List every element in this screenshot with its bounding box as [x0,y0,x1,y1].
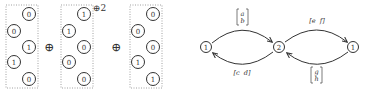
svg-text:1: 1 [351,44,355,52]
column-1: 0 0 1 1 0 [6,5,38,88]
column-3: 0 0 0 1 1 [130,5,162,88]
edge-label-ab: a b [237,9,248,25]
cell-c1-r1: 0 [23,8,36,21]
edge-2-to-3 [285,30,347,42]
cell-c1-r3: 1 [23,41,36,54]
edge-1-to-2 [212,30,272,43]
svg-text:1: 1 [151,76,155,84]
svg-text:0: 0 [151,11,155,19]
svg-text:2: 2 [277,44,281,52]
svg-text:1: 1 [27,44,31,52]
oplus-operator-1: ⊕ [44,40,54,54]
edge-label-cd: [c d] [233,69,250,77]
svg-text:0: 0 [27,76,31,84]
edge-2-to-1 [213,52,273,64]
svg-text:0: 0 [12,28,16,36]
cell-c2-r3: 0 [78,41,91,54]
cell-c2-r4: 0 [63,56,76,69]
cell-c1-r5: 0 [23,73,36,86]
cell-c2-r2: 1 [63,25,76,38]
svg-text:0: 0 [151,44,155,52]
cell-c2-r5: 0 [78,73,91,86]
column-2: 1 1 0 0 0 [61,5,93,88]
oplus-operator-2: ⊕ [111,40,121,54]
edge-label-ef: [e f] [309,17,325,25]
cell-c2-r1: 1 [78,8,91,21]
svg-text:0: 0 [136,28,140,36]
cell-c3-r5: 1 [147,73,160,86]
svg-text:1: 1 [82,11,86,19]
svg-text:0: 0 [82,44,86,52]
cell-c1-r4: 1 [8,56,21,69]
svg-text:1: 1 [204,44,208,52]
node-2-center: 2 [274,42,285,53]
svg-text:0: 0 [67,59,71,67]
svg-text:1: 1 [67,28,71,36]
edge-3-to-2 [287,52,348,64]
svg-text:1: 1 [12,59,16,67]
edge-label-gh: g h [311,67,322,83]
cell-c3-r4: 1 [132,56,145,69]
cell-c1-r2: 0 [8,25,21,38]
cell-c3-r1: 0 [147,8,160,21]
node-1-right: 1 [348,42,359,53]
cell-c3-r2: 0 [132,25,145,38]
svg-text:0: 0 [27,11,31,19]
oplus-2-annotation: ⊕2 [93,3,106,13]
graph-diagram: 1 2 1 a b [c d] [e f] g h [201,9,359,83]
svg-text:0: 0 [82,76,86,84]
svg-text:1: 1 [136,59,140,67]
svg-text:b: b [240,17,244,25]
cell-c3-r3: 0 [147,41,160,54]
node-1-left: 1 [201,42,212,53]
svg-text:h: h [314,75,318,83]
